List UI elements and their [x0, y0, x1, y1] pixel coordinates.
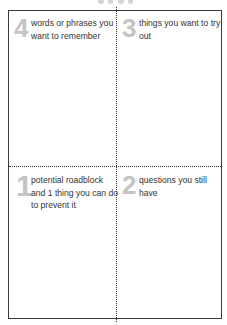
- worksheet-frame: 4 words or phrases you want to remember …: [8, 10, 222, 319]
- quadrant-prompt: things you want to try out: [139, 17, 227, 42]
- quadrant-number: 2: [122, 173, 136, 197]
- cutoff-glyph: [128, 0, 133, 4]
- vertical-dotted-divider: [116, 7, 117, 322]
- cutoff-glyph: [98, 0, 104, 4]
- quadrant-prompt: questions you still have: [139, 174, 227, 199]
- cutoff-glyph: [108, 0, 113, 4]
- cutoff-glyph: [118, 0, 124, 4]
- horizontal-dotted-divider: [9, 166, 221, 167]
- quadrant-prompt: words or phrases you want to remember: [31, 17, 119, 42]
- quadrant-prompt: potential roadblock and 1 thing you can …: [31, 174, 119, 212]
- quadrant-number: 4: [14, 16, 28, 40]
- quadrant-number: 3: [122, 16, 136, 40]
